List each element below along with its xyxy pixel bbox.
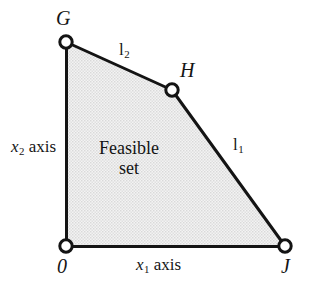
constraint-l1-subscript: 1 <box>238 143 244 155</box>
axis-x1-name: axis <box>154 255 181 274</box>
vertex-label-G: G <box>56 8 70 28</box>
axis-x1-subscript: 1 <box>144 263 150 275</box>
vertex-label-origin: 0 <box>57 256 67 276</box>
axis-x2-name: axis <box>29 137 56 156</box>
axis-label-x1: x1 axis <box>136 256 181 273</box>
vertex-marker-H <box>166 84 178 96</box>
vertex-marker-origin <box>60 240 72 252</box>
axis-label-x2: x2 axis <box>11 138 56 155</box>
constraint-label-l2: l2 <box>119 41 130 58</box>
axis-x1-base: x <box>136 255 144 274</box>
constraint-l2-subscript: 2 <box>124 48 130 60</box>
constraint-label-l1: l1 <box>233 136 244 153</box>
vertex-label-J: J <box>281 256 290 276</box>
feasible-set-caption-line1: Feasible <box>99 138 159 158</box>
feasible-set-figure: G H J 0 l2 l1 x2 axis x1 axis Feasible s… <box>0 0 315 288</box>
vertex-marker-J <box>279 240 291 252</box>
feasible-set-caption-line2: set <box>99 158 159 178</box>
axis-x2-base: x <box>11 137 19 156</box>
axis-x2-subscript: 2 <box>19 145 25 157</box>
vertex-marker-G <box>60 36 72 48</box>
feasible-set-caption: Feasible set <box>99 138 159 178</box>
vertex-label-H: H <box>180 60 194 80</box>
